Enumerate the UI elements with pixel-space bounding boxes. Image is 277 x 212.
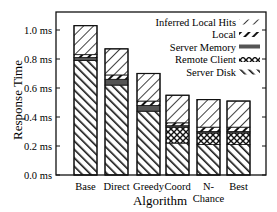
y-tick-label: 1.0 ms: [24, 25, 52, 36]
bar-greedy: [137, 74, 160, 176]
y-tick-label: 0.6 ms: [24, 83, 52, 94]
y-tick-label: 0.4 ms: [24, 112, 52, 123]
bar-segment-server-disk: [166, 143, 189, 175]
y-tick-label: 0.8 ms: [24, 54, 52, 65]
x-category-label: Base: [75, 181, 96, 192]
bar-segment-server-disk: [227, 145, 250, 175]
bar-base: [74, 26, 97, 175]
y-tick-label: 0.0 ms: [24, 170, 52, 181]
bar-segment-server-disk: [197, 145, 220, 175]
bar-direct: [105, 49, 128, 175]
legend-swatch-crosshatch: [239, 57, 260, 62]
legend-label: Server Disk: [186, 67, 237, 78]
bar-segment-server-disk: [74, 60, 97, 175]
y-tick-label: 0.2 ms: [24, 141, 52, 152]
legend-swatch-solid-dark: [239, 45, 260, 49]
bar-segment-local: [105, 75, 128, 79]
bar-segment-server-memory: [137, 105, 160, 111]
bar-segment-local: [137, 101, 160, 105]
bar-coord: [166, 95, 189, 175]
x-category-label: Chance: [193, 193, 225, 204]
bar-segment-local: [166, 123, 189, 126]
bar-segment-inferred-local-hits: [227, 101, 250, 127]
legend-swatch-diag-thin-back: [239, 20, 260, 25]
legend-label: Inferred Local Hits: [156, 17, 236, 28]
bar-segment-remote-client: [227, 133, 250, 145]
bar-segment-remote-client: [166, 127, 189, 143]
x-category-label: Coord: [164, 181, 191, 192]
x-axis-title: Algorithm: [133, 193, 187, 208]
bar-segment-local: [197, 127, 220, 131]
svg-text:Response Time: Response Time: [10, 60, 25, 140]
legend: Inferred Local HitsLocalServer MemoryRem…: [156, 17, 260, 78]
bar-best: [227, 101, 250, 175]
bar-segment-server-memory: [105, 79, 128, 85]
y-axis-title: Response Time: [10, 60, 25, 140]
legend-swatch-diag-thick-back: [239, 32, 260, 37]
bar-n-chance: [197, 100, 220, 175]
bar-segment-inferred-local-hits: [74, 26, 97, 55]
x-category-label: Greedy: [133, 181, 165, 192]
x-category-label: Direct: [103, 181, 129, 192]
stacked-bar-chart: Response Time Algorithm 0.0 ms0.2 ms0.4 …: [0, 0, 277, 212]
x-category-label: N-: [203, 181, 215, 192]
bar-segment-server-memory: [74, 58, 97, 61]
svg-text:Algorithm: Algorithm: [133, 193, 187, 208]
bar-segment-server-disk: [137, 111, 160, 175]
bar-segment-inferred-local-hits: [137, 74, 160, 102]
bar-segment-inferred-local-hits: [197, 100, 220, 128]
bar-segment-server-disk: [105, 85, 128, 175]
legend-label: Local: [212, 29, 236, 40]
legend-label: Remote Client: [175, 54, 236, 65]
legend-label: Server Memory: [170, 42, 237, 53]
bar-segment-inferred-local-hits: [105, 49, 128, 75]
bar-segment-local: [74, 55, 97, 58]
bar-segment-local: [227, 127, 250, 131]
legend-swatch-diag-thick-forward: [239, 70, 260, 75]
bar-segment-inferred-local-hits: [166, 95, 189, 123]
x-category-label: Best: [229, 181, 248, 192]
bar-segment-remote-client: [197, 133, 220, 145]
